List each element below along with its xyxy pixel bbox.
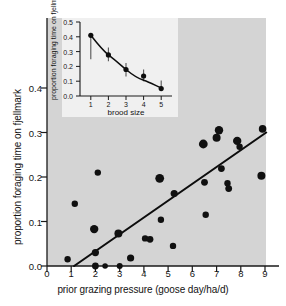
inset-data-point [141,73,146,78]
data-point [95,169,101,175]
data-point [72,201,78,207]
inset-data-point [88,33,93,38]
inset-fit-curve [91,35,161,88]
x-tick-label: 4 [141,268,146,279]
data-point [199,140,208,149]
data-point [213,134,221,142]
data-point [64,256,70,262]
x-tick-label: 6 [190,268,195,279]
data-point [259,125,267,133]
data-point [102,263,108,269]
data-point [218,165,225,172]
x-tick-label: 3 [117,268,122,279]
data-point [203,212,209,218]
x-axis-label: prior grazing pressure (goose day/ha/d) [0,284,286,295]
data-point [114,230,122,238]
inset-x-tick-label: 4 [142,101,146,108]
inset-x-tick-label: 2 [106,101,110,108]
data-point [171,190,178,197]
scatter-points [64,125,266,269]
inset-data-point [159,86,164,91]
data-point [147,236,154,243]
data-point [127,254,134,261]
inset-data-points [88,33,164,92]
inset-x-tick-label: 1 [89,101,93,108]
data-point [170,243,176,249]
data-point [257,172,265,180]
inset-y-axis-label: proportion foraging time on fjellmark [50,0,57,100]
inset-x-ticks [91,96,161,100]
inset-data-point [106,52,111,57]
x-tick-label: 2 [93,268,98,279]
data-point [225,185,232,192]
data-point [90,225,98,233]
inset-x-tick-label: 5 [159,101,163,108]
inset-data-point [123,67,128,72]
y-tick-label: 0.0 [16,261,42,272]
x-tick-label: 1 [69,268,74,279]
x-tick-label: 0 [44,268,49,279]
inset-x-axis-label: brood size [108,108,145,117]
data-point [236,144,242,150]
x-tick-label: 7 [214,268,219,279]
y-axis-label: proportion foraging time on fjellmark [12,89,23,245]
inset-y-ticks [76,22,80,96]
data-point [155,174,164,183]
x-axis-ticks [47,266,265,272]
data-point [215,126,223,134]
data-point [201,179,208,186]
data-point [158,217,164,223]
inset-x-tick-label: 3 [124,101,128,108]
figure-container: 0.0 0.1 0.2 0.3 0.4 0 1 2 3 4 5 6 7 8 9 … [0,0,286,306]
data-point [92,249,99,256]
inset-error-bars [91,34,161,89]
x-tick-label: 8 [238,268,243,279]
inset-plot-background: 0.0 0.1 0.2 0.3 0.4 0.5 1 2 3 4 5 brood … [62,18,178,117]
x-tick-label: 5 [165,268,170,279]
x-tick-label: 9 [262,268,267,279]
